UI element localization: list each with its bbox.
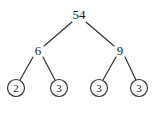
leaf-label-4: 3 bbox=[136, 82, 142, 94]
leaf-label-1: 2 bbox=[13, 82, 19, 94]
leaf-label-2: 3 bbox=[56, 82, 62, 94]
edge-left-leaf2 bbox=[43, 57, 55, 80]
edge-left-leaf1 bbox=[20, 57, 33, 80]
edge-right-leaf4 bbox=[125, 57, 136, 80]
node-right-label: 9 bbox=[117, 43, 124, 58]
tree-internal-nodes: 54 6 9 bbox=[35, 7, 124, 58]
node-left-label: 6 bbox=[35, 43, 42, 58]
tree-canvas: 54 6 9 2 3 3 3 bbox=[0, 0, 159, 115]
leaf-node-1: 2 bbox=[8, 80, 25, 97]
leaf-label-3: 3 bbox=[96, 82, 102, 94]
factor-tree-figure: 54 6 9 2 3 3 3 bbox=[0, 0, 159, 115]
tree-leaf-nodes: 2 3 3 3 bbox=[8, 80, 148, 97]
edge-root-left bbox=[44, 22, 72, 46]
leaf-node-2: 3 bbox=[51, 80, 68, 97]
edge-root-right bbox=[86, 22, 114, 46]
leaf-node-4: 3 bbox=[131, 80, 148, 97]
leaf-node-3: 3 bbox=[91, 80, 108, 97]
node-root-label: 54 bbox=[73, 7, 87, 22]
edge-right-leaf3 bbox=[103, 57, 116, 80]
